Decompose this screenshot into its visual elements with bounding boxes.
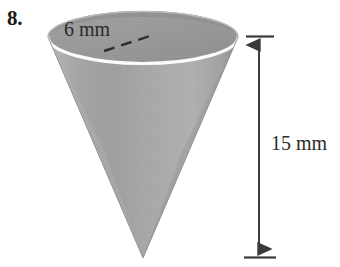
diameter-label: 6 mm <box>64 18 110 41</box>
problem-number: 8. <box>7 6 22 31</box>
cone-body <box>48 37 238 258</box>
height-label: 15 mm <box>271 132 327 155</box>
figure-page: 8. 6 mm 15 mm <box>0 0 340 267</box>
